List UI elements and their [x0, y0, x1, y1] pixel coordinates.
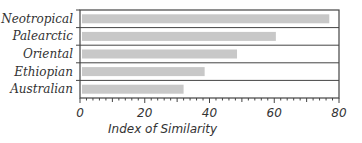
x-tick-label: 20	[137, 106, 153, 120]
x-tick-label: 40	[202, 106, 218, 120]
bar	[82, 67, 205, 76]
x-tick-label: 80	[331, 106, 347, 120]
category-labels: NeotropicalPalearcticOrientalEthiopianAu…	[0, 12, 73, 96]
x-axis-ticks: 020406080	[76, 98, 347, 120]
category-label: Australian	[9, 82, 73, 96]
bar	[82, 14, 329, 23]
category-label: Palearctic	[11, 29, 73, 43]
bar-chart: NeotropicalPalearcticOrientalEthiopianAu…	[0, 0, 362, 143]
bars	[82, 14, 329, 93]
bar	[82, 85, 184, 94]
category-label: Ethiopian	[13, 65, 73, 79]
bar	[82, 32, 276, 41]
category-label: Oriental	[23, 47, 73, 61]
x-tick-label: 60	[267, 106, 283, 120]
bar	[82, 50, 237, 59]
category-label: Neotropical	[0, 12, 73, 26]
x-axis-label: Index of Similarity	[108, 122, 218, 136]
x-tick-label: 0	[76, 106, 84, 120]
